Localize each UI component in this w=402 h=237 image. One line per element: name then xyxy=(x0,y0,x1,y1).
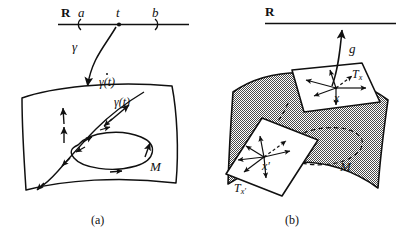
manifold-label-b: M xyxy=(340,160,351,173)
interval-tick-b: b xyxy=(152,6,159,19)
figure-container: R a t b γ γ(t) γ(t) M (a) R g Tx x Tx′ x… xyxy=(0,0,402,237)
caption-b: (b) xyxy=(285,214,299,226)
panel-b-artwork xyxy=(226,24,396,197)
function-g-label: g xyxy=(349,42,356,55)
real-line-label-a: R xyxy=(61,6,70,19)
velocity-vector-label: γ(t) xyxy=(99,76,115,88)
base-point-upper-label: x xyxy=(334,92,339,104)
panel-a-artwork xyxy=(22,19,189,190)
real-line-label-b: R xyxy=(265,5,274,18)
gamma-map-label: γ xyxy=(72,40,77,53)
interval-tick-a: a xyxy=(78,6,85,19)
interval-tick-t: t xyxy=(116,6,120,19)
gamma-dot-glyph: γ(t) xyxy=(99,76,115,88)
tangent-space-upper-label: Tx xyxy=(352,68,362,82)
tangent-space-lower-label: Tx′ xyxy=(234,182,246,196)
manifold-label-a: M xyxy=(150,160,161,173)
tangent-space-upper-subscript: x xyxy=(359,73,363,82)
figure-artwork xyxy=(0,0,402,237)
real-line-a xyxy=(58,19,189,30)
curve-point-label: γ(t) xyxy=(114,96,130,108)
base-point-lower-label: x′ xyxy=(262,160,270,172)
tangent-space-lower-T: T xyxy=(234,181,241,195)
tangent-space-upper-T: T xyxy=(352,67,359,81)
manifold-surface-a xyxy=(22,84,177,190)
caption-a: (a) xyxy=(91,214,104,226)
tangent-space-lower-subscript: x′ xyxy=(241,187,246,196)
